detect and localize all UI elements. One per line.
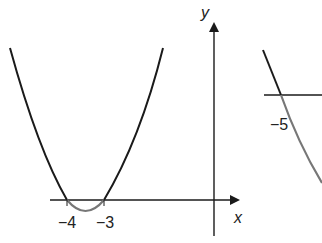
left-graph: −4 −3 x y <box>10 4 243 236</box>
root-label-minus-4: −4 <box>58 214 76 231</box>
root-label-minus-3: −3 <box>96 214 114 231</box>
y-axis-label: y <box>200 4 210 21</box>
right-curve-below-axis <box>281 95 322 183</box>
parabola-left-arm <box>10 48 67 200</box>
right-graph: −5 <box>263 50 322 183</box>
right-curve-above-axis <box>263 50 281 95</box>
root-label-minus-5: −5 <box>270 116 288 133</box>
figure: −4 −3 x y −5 <box>0 0 322 243</box>
parabola-right-arm <box>104 48 163 200</box>
x-axis-label: x <box>233 209 243 226</box>
parabola-below-axis-segment <box>67 200 104 211</box>
